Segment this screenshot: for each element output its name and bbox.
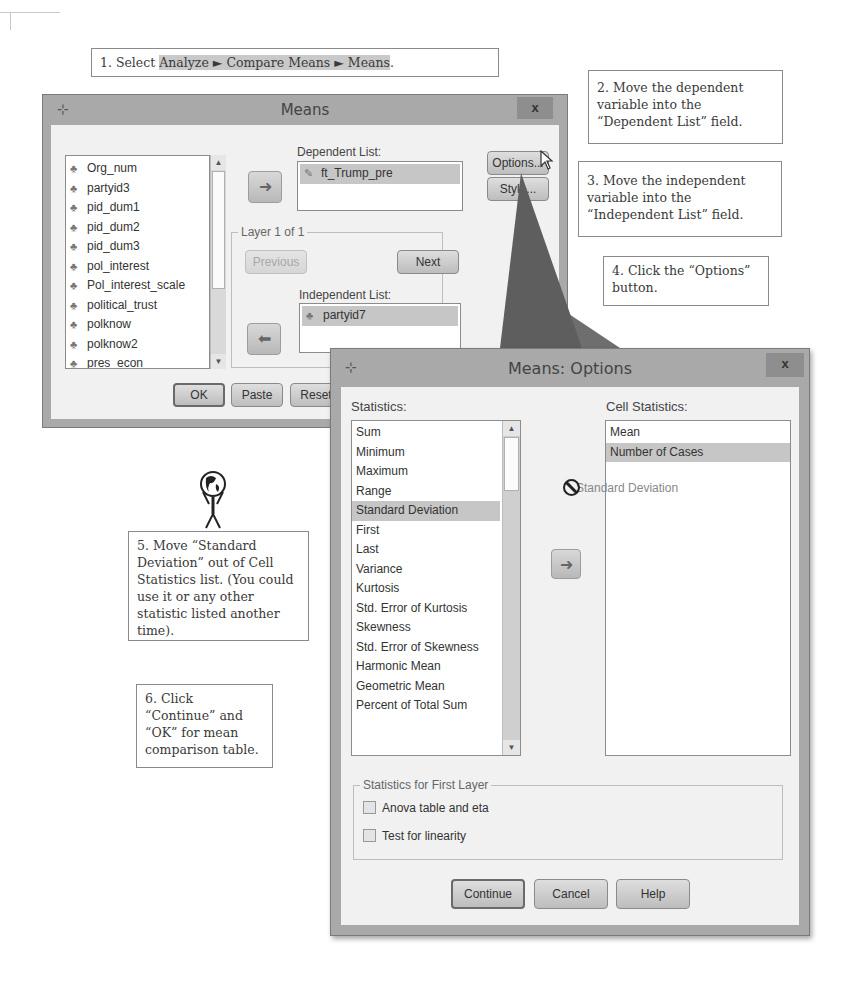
help-button[interactable]: Help (616, 879, 690, 909)
cell-statistics-label: Cell Statistics: (606, 399, 688, 414)
options-client: Statistics: Sum Minimum Maximum Range St… (341, 387, 799, 925)
first-layer-group: Statistics for First Layer (353, 785, 783, 860)
statistics-list[interactable]: Sum Minimum Maximum Range Standard Devia… (351, 420, 521, 756)
list-item[interactable]: Harmonic Mean (352, 657, 520, 677)
drag-ghost: Standard Deviation (563, 479, 678, 496)
no-drop-cursor-icon (563, 479, 580, 496)
anova-checkbox[interactable]: Anova table and eta (363, 801, 489, 815)
list-item[interactable]: Maximum (352, 462, 520, 482)
list-item[interactable]: First (352, 521, 520, 541)
callout-step5: 5. Move “Standard Deviation” out of Cell… (128, 531, 309, 641)
callout-step6: 6. Click “Continue” and “OK” for mean co… (136, 684, 273, 768)
list-item[interactable]: Percent of Total Sum (352, 696, 520, 716)
list-item[interactable]: Skewness (352, 618, 520, 638)
list-item-selected[interactable]: Number of Cases (606, 443, 790, 463)
move-statistic-button[interactable]: ➜ (551, 549, 581, 579)
list-item[interactable]: Last (352, 540, 520, 560)
list-item[interactable]: Minimum (352, 443, 520, 463)
close-button[interactable]: x (766, 353, 804, 377)
linearity-checkbox[interactable]: Test for linearity (363, 829, 466, 843)
scroll-up-arrow-icon[interactable]: ▲ (503, 421, 520, 436)
list-item[interactable]: Variance (352, 560, 520, 580)
list-item[interactable]: Std. Error of Kurtosis (352, 599, 520, 619)
scroll-down-arrow-icon[interactable]: ▼ (503, 740, 520, 755)
atlas-figure-icon (196, 470, 230, 530)
statistics-label: Statistics: (351, 399, 407, 414)
first-layer-label: Statistics for First Layer (360, 778, 491, 792)
means-options-dialog: ⊹ Means: Options x Statistics: Sum Minim… (330, 348, 810, 936)
checkbox-icon[interactable] (363, 801, 376, 814)
cell-statistics-list[interactable]: Mean Number of Cases (605, 420, 791, 756)
list-item[interactable]: Std. Error of Skewness (352, 638, 520, 658)
cancel-button[interactable]: Cancel (534, 879, 608, 909)
list-item[interactable]: Geometric Mean (352, 677, 520, 697)
list-item[interactable]: Range (352, 482, 520, 502)
list-item-selected[interactable]: Standard Deviation (352, 501, 500, 521)
scroll-thumb[interactable] (504, 437, 519, 491)
checkbox-icon[interactable] (363, 829, 376, 842)
options-title: Means: Options (331, 359, 809, 378)
list-item[interactable]: Kurtosis (352, 579, 520, 599)
list-item[interactable]: Sum (352, 423, 520, 443)
statistics-scrollbar[interactable]: ▲ ▼ (502, 421, 520, 755)
continue-button[interactable]: Continue (451, 879, 525, 909)
options-titlebar[interactable]: ⊹ Means: Options x (331, 349, 809, 387)
list-item[interactable]: Mean (606, 423, 790, 443)
